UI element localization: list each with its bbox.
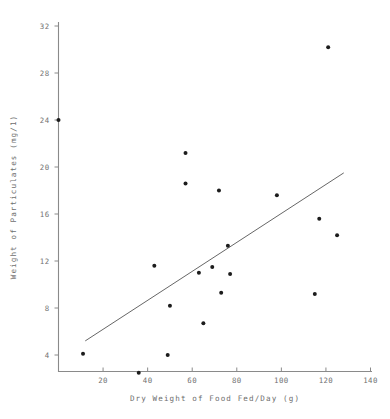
data-point — [201, 321, 205, 325]
y-tick-label: 32 — [40, 22, 50, 31]
x-axis-title: Dry Weight of Food Fed/Day (g) — [130, 394, 300, 403]
data-point — [226, 244, 230, 248]
data-point — [137, 371, 141, 375]
data-point — [197, 271, 201, 275]
x-tick-label: 60 — [187, 376, 197, 385]
data-point — [81, 352, 85, 356]
data-point — [217, 189, 221, 193]
y-tick-label: 20 — [40, 163, 50, 172]
data-point — [57, 118, 61, 122]
x-tick-label: 20 — [98, 376, 108, 385]
data-point — [219, 291, 223, 295]
x-tick-label: 120 — [319, 376, 334, 385]
data-point — [313, 292, 317, 296]
data-point — [210, 265, 214, 269]
data-point — [275, 193, 279, 197]
y-tick-label: 24 — [40, 116, 50, 125]
y-tick-label: 8 — [45, 304, 50, 313]
data-point — [184, 181, 188, 185]
y-tick-label: 12 — [40, 257, 50, 266]
data-point — [166, 353, 170, 357]
data-point — [152, 264, 156, 268]
scatter-chart: 48121620242832 20406080100120140 Dry Wei… — [0, 0, 390, 419]
x-tick-label: 80 — [232, 376, 242, 385]
data-point — [168, 304, 172, 308]
x-tick-label: 100 — [274, 376, 289, 385]
data-point — [326, 45, 330, 49]
y-tick-label: 16 — [40, 210, 50, 219]
data-point — [228, 272, 232, 276]
x-tick-label: 40 — [143, 376, 153, 385]
data-point — [317, 217, 321, 221]
y-tick-label: 4 — [45, 351, 50, 360]
data-point — [335, 233, 339, 237]
data-point — [184, 151, 188, 155]
x-tick-label: 140 — [363, 376, 378, 385]
y-axis-title: Weight of Particulates (mg/1) — [9, 115, 18, 279]
y-tick-label: 28 — [40, 69, 50, 78]
